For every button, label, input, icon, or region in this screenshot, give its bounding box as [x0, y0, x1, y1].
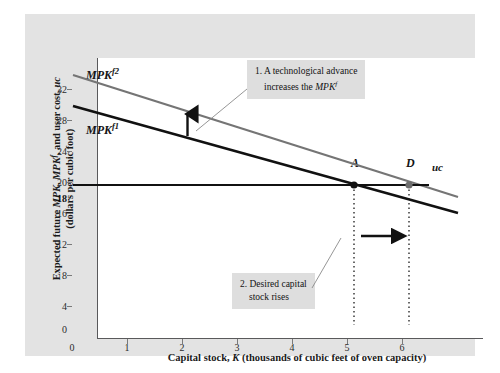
curve-label-mpk-f2-sup: f2 [112, 66, 119, 76]
y-tick-mark-4 [67, 306, 72, 307]
x-tick-mark-2 [182, 339, 183, 344]
y-tick-label-28: 28 [37, 115, 67, 126]
point-label-D: D [406, 156, 415, 171]
curve-label-mpk-f2: MPKf2 [86, 66, 119, 83]
annotation-2: 2. Desired capital stock rises [232, 273, 315, 309]
x-tick-mark-1 [127, 339, 128, 344]
figure-container: Expected future MPK, MPKf, and user cost… [0, 0, 500, 373]
y-tick-label-20: 20 [37, 177, 67, 188]
y-tick-label-18: 18 [37, 193, 67, 204]
y-tick-label-4: 4 [37, 301, 67, 312]
curve-label-uc: uc [432, 161, 443, 173]
y-tick-mark-28 [67, 120, 72, 121]
annotation-2-line2: stock rises [240, 291, 307, 304]
curve-label-mpk-f1-text: MPK [86, 123, 112, 137]
annotation-1: 1. A technological advance increases the… [247, 60, 365, 99]
annotation-1-line1: 1. A technological advance [255, 66, 357, 76]
annotation-1-line2-sup: f [335, 80, 337, 88]
y-tick-mark-16 [67, 213, 72, 214]
y-tick-label-0: 0 [37, 324, 67, 335]
y-tick-mark-12 [67, 244, 72, 245]
x-axis-title-post: (thousands of cubic feet of oven capacit… [239, 352, 426, 363]
curve-label-mpk-f1: MPKf1 [86, 121, 119, 138]
annotation-1-line2-mpk: MPK [315, 82, 335, 92]
curve-label-mpk-f2-text: MPK [86, 68, 112, 82]
y-tick-label-8: 8 [37, 270, 67, 281]
curve-label-mpk-f1-sup: f1 [112, 121, 119, 131]
x-tick-mark-6 [402, 339, 403, 344]
y-tick-label-16: 16 [37, 208, 67, 219]
x-tick-mark-3 [237, 339, 238, 344]
x-tick-mark-4 [292, 339, 293, 344]
y-tick-mark-24 [67, 151, 72, 152]
y-tick-label-12: 12 [37, 239, 67, 250]
x-axis-title-pre: Capital stock, [168, 352, 232, 363]
chart-panel: Expected future MPK, MPKf, and user cost… [25, 14, 475, 356]
y-tick-label-24: 24 [37, 146, 67, 157]
annotation-1-line2-pre: increases the [264, 82, 315, 92]
x-axis-title: Capital stock, K (thousands of cubic fee… [97, 352, 497, 363]
y-tick-mark-20 [67, 182, 72, 183]
point-label-A: A [351, 156, 359, 171]
x-tick-label-0: 0 [57, 342, 87, 353]
annotation-2-line1: 2. Desired capital [240, 279, 307, 289]
y-tick-label-32: 32 [37, 84, 67, 95]
y-tick-mark-8 [67, 275, 72, 276]
annotation-1-line2: increases the MPKf [255, 78, 357, 94]
y-tick-mark-32 [67, 89, 72, 90]
x-tick-mark-5 [347, 339, 348, 344]
